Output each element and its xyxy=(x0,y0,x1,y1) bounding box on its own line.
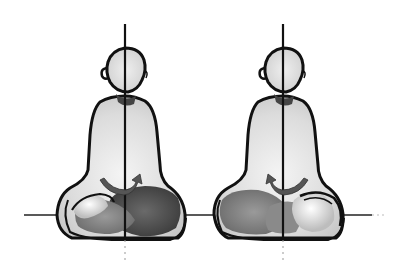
right-figure xyxy=(214,24,344,262)
illustration xyxy=(0,0,396,271)
meditation-figures-drawing xyxy=(0,0,396,271)
left-figure xyxy=(57,24,186,262)
